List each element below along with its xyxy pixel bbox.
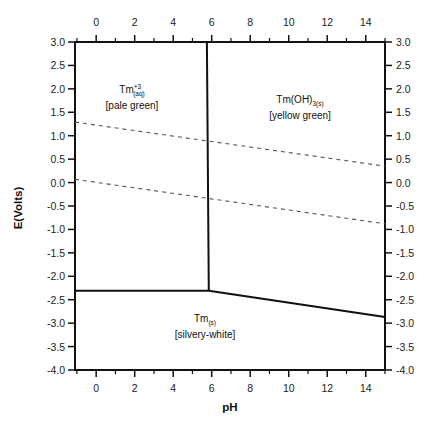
x-tick-label: 8 bbox=[247, 382, 253, 394]
phase-subscript: (s) bbox=[208, 319, 216, 326]
water-stability-line bbox=[75, 122, 385, 166]
y-tick-label-right: 0.5 bbox=[396, 153, 411, 165]
y-tick-label-right: -1.5 bbox=[396, 247, 414, 259]
x-tick-label-top: 10 bbox=[283, 16, 295, 28]
y-tick-label-right: -0.5 bbox=[396, 200, 414, 212]
color-note: [yellow green] bbox=[245, 110, 355, 122]
y-tick-label: 0.0 bbox=[50, 177, 65, 189]
y-tick-label: -3.5 bbox=[47, 341, 65, 353]
y-tick-label-right: 1.0 bbox=[396, 130, 411, 142]
x-tick-label: 14 bbox=[360, 382, 372, 394]
y-tick-label-right: -2.0 bbox=[396, 270, 414, 282]
x-axis-title: pH bbox=[222, 401, 237, 413]
y-tick-label: -2.5 bbox=[47, 294, 65, 306]
phase-subscript: 3(s) bbox=[312, 100, 323, 107]
y-tick-label: 2.5 bbox=[50, 59, 65, 71]
y-tick-label-right: 2.0 bbox=[396, 83, 411, 95]
species-name: Tm(OH) bbox=[276, 94, 312, 105]
color-note: [pale green] bbox=[82, 100, 182, 112]
region-label-tm-s: Tm(s) [silvery-white] bbox=[155, 313, 255, 341]
x-tick-label: 12 bbox=[321, 382, 333, 394]
region-label-tmoh3-s: Tm(OH)3(s) [yellow green] bbox=[245, 94, 355, 122]
y-tick-label: 2.0 bbox=[50, 83, 65, 95]
species-name: Tm bbox=[194, 313, 208, 324]
y-tick-label: -1.5 bbox=[47, 247, 65, 259]
y-tick-label: 1.5 bbox=[50, 106, 65, 118]
phase-subscript: (aq) bbox=[133, 90, 145, 97]
x-tick-label: 6 bbox=[209, 382, 215, 394]
x-tick-label-top: 14 bbox=[360, 16, 372, 28]
y-tick-label-right: -1.0 bbox=[396, 223, 414, 235]
x-tick-label: 10 bbox=[283, 382, 295, 394]
x-tick-label-top: 8 bbox=[247, 16, 253, 28]
y-tick-label-right: -3.5 bbox=[396, 341, 414, 353]
y-tick-label-right: -3.0 bbox=[396, 317, 414, 329]
x-tick-label: 0 bbox=[93, 382, 99, 394]
x-tick-label: 4 bbox=[170, 382, 176, 394]
y-tick-label: -4.0 bbox=[47, 364, 65, 376]
y-tick-label: -1.0 bbox=[47, 223, 65, 235]
color-note: [silvery-white] bbox=[155, 329, 255, 341]
y-axis-title: E(Volts) bbox=[12, 187, 24, 230]
x-tick-label-top: 12 bbox=[321, 16, 333, 28]
y-tick-label: -0.5 bbox=[47, 200, 65, 212]
x-tick-label-top: 2 bbox=[132, 16, 138, 28]
charge-superscript: +3 bbox=[134, 83, 141, 90]
y-tick-label-right: -4.0 bbox=[396, 364, 414, 376]
y-tick-label: 0.5 bbox=[50, 153, 65, 165]
y-tick-label: -3.0 bbox=[47, 317, 65, 329]
y-tick-label-right: 1.5 bbox=[396, 106, 411, 118]
y-tick-label: -2.0 bbox=[47, 270, 65, 282]
region-label-tm3-aq: Tm+3(aq) [pale green] bbox=[82, 81, 182, 112]
pourbaix-diagram: 00224466881010121214143.03.02.52.52.02.0… bbox=[0, 0, 435, 422]
y-tick-label: 3.0 bbox=[50, 36, 65, 48]
y-tick-label-right: 0.0 bbox=[396, 177, 411, 189]
x-tick-label-top: 6 bbox=[209, 16, 215, 28]
x-tick-label: 2 bbox=[132, 382, 138, 394]
y-tick-label-right: -2.5 bbox=[396, 294, 414, 306]
phase-boundary-line bbox=[207, 42, 209, 291]
water-stability-line bbox=[75, 179, 385, 224]
x-tick-label-top: 4 bbox=[170, 16, 176, 28]
y-tick-label-right: 3.0 bbox=[396, 36, 411, 48]
y-tick-label: 1.0 bbox=[50, 130, 65, 142]
y-tick-label-right: 2.5 bbox=[396, 59, 411, 71]
x-tick-label-top: 0 bbox=[93, 16, 99, 28]
species-name: Tm bbox=[119, 84, 133, 95]
